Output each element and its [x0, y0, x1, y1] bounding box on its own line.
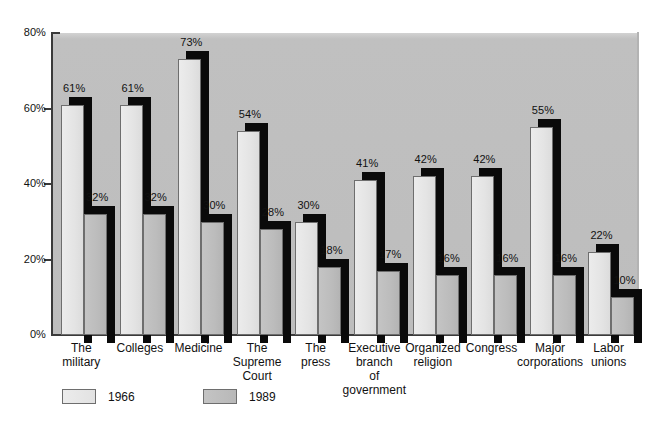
bar-shadow-right — [283, 229, 291, 343]
bar-shadow-right — [224, 222, 232, 343]
bar-1989-9[interactable] — [611, 297, 634, 335]
x-axis-category-line: Court — [219, 369, 296, 383]
bar-value-label: 30% — [297, 200, 319, 211]
bar-1966-2[interactable] — [178, 59, 201, 335]
bar-value-label: 41% — [356, 158, 378, 169]
bar-shadow-top — [186, 51, 209, 59]
bar-value-label: 55% — [532, 105, 554, 116]
x-axis-category-line: military — [43, 355, 120, 369]
bar-shadow-right — [634, 297, 642, 343]
y-axis-label: 0% — [4, 329, 46, 340]
bar-group: 55%16% — [521, 33, 580, 335]
bar-value-label: 16% — [438, 253, 460, 264]
x-axis-category-line: Labor — [570, 341, 647, 355]
bar-shadow-top — [444, 267, 467, 275]
bar-shadow-top — [151, 206, 174, 214]
bar-1966-5[interactable] — [354, 180, 377, 335]
bar-value-label: 73% — [180, 37, 202, 48]
bar-shadow-top — [326, 259, 349, 267]
bar-1989-3[interactable] — [260, 229, 283, 335]
x-axis-category-line: government — [336, 383, 413, 397]
bar-group: 61%32% — [111, 33, 170, 335]
bar-1966-9[interactable] — [588, 252, 611, 335]
bar-value-label: 54% — [239, 109, 261, 120]
y-axis-top-cap — [51, 32, 60, 34]
bar-1966-4[interactable] — [295, 222, 318, 335]
bar-shadow-top — [268, 221, 291, 229]
bar-shadow-top — [561, 267, 584, 275]
y-axis-label: 60% — [4, 103, 46, 114]
bar-1989-6[interactable] — [436, 275, 459, 335]
bar-value-label: 10% — [613, 275, 635, 286]
bar-shadow-right — [400, 271, 408, 343]
bar-value-label: 42% — [473, 154, 495, 165]
bar-value-label: 30% — [203, 200, 225, 211]
bar-value-label: 32% — [86, 192, 108, 203]
bar-shadow-top — [303, 214, 326, 222]
bar-shadow-top — [479, 168, 502, 176]
legend-item-1966: 1966 — [62, 389, 135, 404]
bar-value-label: 42% — [415, 154, 437, 165]
bar-1966-7[interactable] — [471, 176, 494, 335]
bar-shadow-right — [107, 214, 115, 343]
bar-value-label: 16% — [555, 253, 577, 264]
y-axis-label: 80% — [4, 27, 46, 38]
bar-1989-5[interactable] — [377, 271, 400, 335]
dark-swatch-icon — [203, 389, 237, 404]
bar-shadow-right — [341, 267, 349, 343]
bar-shadow-right — [576, 275, 584, 343]
bar-group: 22%10% — [579, 33, 638, 335]
bar-value-label: 61% — [63, 83, 85, 94]
bar-1989-4[interactable] — [318, 267, 341, 335]
x-axis-category-label: Laborunions — [570, 341, 647, 369]
x-axis-category-line: of — [336, 369, 413, 383]
bar-1989-2[interactable] — [201, 222, 224, 335]
bar-group: 73%30% — [169, 33, 228, 335]
bar-1966-1[interactable] — [120, 105, 143, 335]
x-axis-category-line: religion — [395, 355, 472, 369]
bar-shadow-top — [538, 119, 561, 127]
bar-group: 61%32% — [52, 33, 111, 335]
legend-label-1966: 1966 — [108, 391, 135, 403]
bar-1966-0[interactable] — [61, 105, 84, 335]
bar-1989-1[interactable] — [143, 214, 166, 335]
bar-shadow-top — [245, 123, 268, 131]
bar-value-label: 17% — [379, 249, 401, 260]
bar-value-label: 61% — [122, 83, 144, 94]
bar-shadow-top — [385, 263, 408, 271]
bar-shadow-top — [209, 214, 232, 222]
bar-1966-6[interactable] — [413, 176, 436, 335]
bar-value-label: 18% — [320, 245, 342, 256]
bar-shadow-top — [421, 168, 444, 176]
bar-shadow-top — [502, 267, 525, 275]
bar-1989-0[interactable] — [84, 214, 107, 335]
x-axis-category-line: unions — [570, 355, 647, 369]
bar-group: 41%17% — [345, 33, 404, 335]
bar-chart: 61%32%61%32%73%30%54%28%30%18%41%17%42%1… — [0, 0, 659, 424]
bar-group: 42%16% — [462, 33, 521, 335]
bar-value-label: 28% — [262, 207, 284, 218]
y-axis-label: 40% — [4, 178, 46, 189]
bar-shadow-top — [92, 206, 115, 214]
bar-shadow-top — [362, 172, 385, 180]
bar-shadow-top — [596, 244, 619, 252]
bar-1966-8[interactable] — [530, 127, 553, 335]
bar-1966-3[interactable] — [237, 131, 260, 335]
bar-group: 30%18% — [286, 33, 345, 335]
bar-shadow-top — [619, 289, 642, 297]
bar-group: 54%28% — [228, 33, 287, 335]
bar-1989-7[interactable] — [494, 275, 517, 335]
bar-1989-8[interactable] — [553, 275, 576, 335]
legend-label-1989: 1989 — [249, 391, 276, 403]
bar-shadow-right — [166, 214, 174, 343]
light-swatch-icon — [62, 389, 96, 404]
bar-group: 42%16% — [404, 33, 463, 335]
y-axis-label: 20% — [4, 254, 46, 265]
bar-shadow-right — [459, 275, 467, 343]
bar-shadow-top — [69, 97, 92, 105]
bar-shadow-right — [517, 275, 525, 343]
bar-value-label: 22% — [590, 230, 612, 241]
bar-shadow-top — [128, 97, 151, 105]
bar-value-label: 16% — [496, 253, 518, 264]
legend-item-1989: 1989 — [203, 389, 276, 404]
